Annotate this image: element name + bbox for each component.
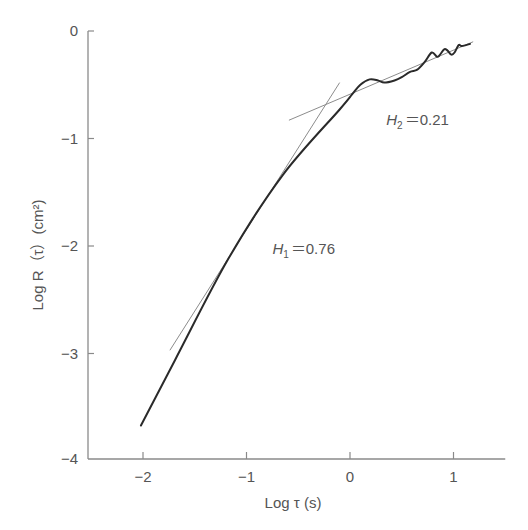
hurst-annotation-1: H1＝0.76 — [272, 240, 335, 260]
x-axis-label: Log τ (s) — [265, 494, 322, 511]
x-tick-label: 0 — [346, 468, 354, 485]
annotations: H1＝0.76H2＝0.21 — [272, 111, 448, 260]
x-tick-label: 1 — [449, 468, 457, 485]
chart: 0−1−2−3−4−2−101 Log τ (s) Log R（τ）(cm²) … — [0, 0, 528, 530]
y-tick-label: 0 — [70, 22, 78, 39]
hurst-annotation-2: H2＝0.21 — [386, 111, 449, 131]
y-axis-label: Log R（τ）(cm²) — [29, 200, 46, 311]
y-tick-label: −2 — [61, 237, 78, 254]
data-curve-path — [141, 44, 470, 426]
fit-lines — [170, 42, 473, 351]
y-tick-label: −3 — [61, 345, 78, 362]
y-tick-label: −4 — [61, 450, 78, 467]
x-tick-label: −2 — [134, 468, 151, 485]
data-curve — [141, 44, 470, 426]
y-tick-label: −1 — [61, 130, 78, 147]
x-tick-label: −1 — [238, 468, 255, 485]
